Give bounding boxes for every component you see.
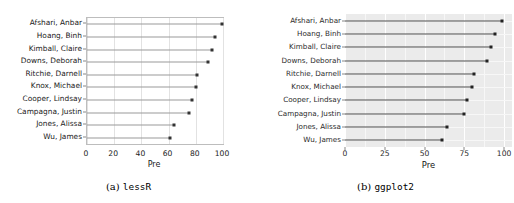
- figure-two-panel-lollipop-charts: Afshari, AnbarHoang, BinhKimball, Claire…: [0, 0, 514, 203]
- lollipop-line: [87, 24, 222, 25]
- x-axis-tick-label: 100: [215, 150, 230, 158]
- x-axis-tick-label: 0: [84, 150, 89, 158]
- plot-area-lessr: [86, 17, 224, 145]
- data-point: [211, 48, 214, 51]
- data-point: [485, 59, 488, 62]
- lollipop-line: [87, 49, 212, 50]
- x-axis-tick-label: 50: [420, 150, 430, 158]
- lollipop-line: [87, 137, 170, 138]
- y-axis-label: Jones, Alissa: [36, 120, 82, 127]
- lollipop-line: [87, 62, 208, 63]
- lollipop-line: [87, 99, 192, 100]
- y-axis-label: Cooper, Lindsay: [23, 95, 82, 102]
- y-axis-category-labels-lessr: Afshari, AnbarHoang, BinhKimball, Claire…: [6, 17, 82, 143]
- y-axis-label: Knox, Michael: [291, 84, 341, 91]
- lollipop-line: [87, 74, 197, 75]
- data-point: [220, 23, 223, 26]
- y-axis-label: Ritchie, Darnell: [25, 70, 82, 77]
- y-axis-label: Afshari, Anbar: [290, 17, 341, 24]
- lollipop-line: [345, 60, 487, 61]
- lollipop-line: [87, 87, 196, 88]
- data-point: [493, 32, 496, 35]
- y-axis-label: Kimball, Claire: [29, 45, 82, 52]
- y-axis-label: Hoang, Binh: [37, 32, 82, 39]
- data-point: [196, 73, 199, 76]
- x-axis-title-lessr: Pre: [86, 161, 222, 169]
- lollipop-line: [345, 33, 495, 34]
- y-axis-label: Wu, James: [303, 137, 341, 144]
- data-point: [213, 35, 216, 38]
- data-point: [471, 86, 474, 89]
- panel-lessr: Afshari, AnbarHoang, BinhKimball, Claire…: [0, 0, 257, 203]
- x-axis-tick-label: 0: [343, 150, 348, 158]
- data-point: [188, 111, 191, 114]
- y-axis-label: Kimball, Claire: [289, 44, 341, 51]
- x-axis-tick-label: 25: [380, 150, 390, 158]
- x-axis-tick-label: 20: [108, 150, 118, 158]
- lollipop-line: [345, 20, 502, 21]
- x-axis-tick-label: 60: [163, 150, 173, 158]
- lollipop-line: [345, 127, 447, 128]
- data-point: [194, 86, 197, 89]
- lollipop-line: [87, 36, 215, 37]
- plot-area-ggplot2: [345, 14, 512, 147]
- data-point: [463, 112, 466, 115]
- y-axis-label: Cooper, Lindsay: [283, 97, 341, 104]
- x-axis-tick-label: 100: [497, 150, 512, 158]
- x-axis-tick-label: 75: [459, 150, 469, 158]
- data-point: [190, 98, 193, 101]
- x-axis-tick-label: 40: [136, 150, 146, 158]
- lollipop-line: [87, 112, 189, 113]
- y-axis-label: Hoang, Binh: [297, 30, 341, 37]
- caption-b-label: (b): [357, 181, 371, 192]
- data-point: [445, 126, 448, 129]
- lollipop-line: [345, 100, 467, 101]
- lollipop-line: [345, 73, 474, 74]
- lollipop-line: [87, 125, 174, 126]
- data-point: [168, 136, 171, 139]
- y-axis-label: Downs, Deborah: [21, 57, 82, 64]
- data-point: [173, 124, 176, 127]
- y-axis-label: Wu, James: [43, 133, 82, 140]
- lollipop-line: [345, 87, 472, 88]
- caption-a-label: (a): [106, 181, 120, 192]
- y-axis-label: Jones, Alissa: [296, 123, 341, 130]
- data-point: [501, 19, 504, 22]
- y-axis-label: Afshari, Anbar: [30, 20, 82, 27]
- panel-ggplot2: Afshari, AnbarHoang, BinhKimball, Claire…: [257, 0, 514, 203]
- y-axis-label: Knox, Michael: [31, 83, 82, 90]
- caption-a-package-name: lessR: [123, 181, 151, 192]
- data-point: [207, 61, 210, 64]
- y-axis-label: Downs, Deborah: [281, 57, 341, 64]
- data-point: [441, 139, 444, 142]
- x-axis-title-ggplot2: Pre: [345, 161, 512, 169]
- chart-lessr: Afshari, AnbarHoang, BinhKimball, Claire…: [0, 0, 257, 172]
- lollipop-line: [345, 113, 464, 114]
- chart-ggplot2: Afshari, AnbarHoang, BinhKimball, Claire…: [257, 0, 514, 172]
- lollipop-line: [345, 140, 442, 141]
- y-axis-label: Ritchie, Darnell: [286, 70, 341, 77]
- y-axis-label: Campagna, Justin: [278, 110, 341, 117]
- data-point: [472, 72, 475, 75]
- caption-panel-a: (a) lessR: [0, 181, 257, 192]
- caption-panel-b: (b) ggplot2: [257, 181, 514, 192]
- y-axis-category-labels-ggplot2: Afshari, AnbarHoang, BinhKimball, Claire…: [261, 14, 341, 147]
- data-point: [490, 46, 493, 49]
- caption-b-package-name: ggplot2: [374, 181, 414, 192]
- lollipop-line: [345, 47, 491, 48]
- y-axis-label: Campagna, Justin: [17, 108, 82, 115]
- data-point: [466, 99, 469, 102]
- x-axis-tick-label: 80: [190, 150, 200, 158]
- gridline-major-vertical: [223, 18, 224, 144]
